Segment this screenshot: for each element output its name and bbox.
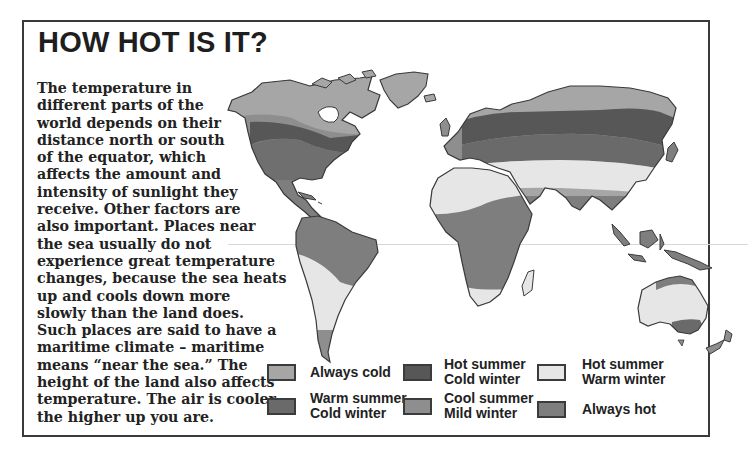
- legend-label: Warm winter: [582, 372, 666, 387]
- legend-label: Warm summer: [310, 391, 407, 406]
- legend-label: Hot summer: [582, 357, 666, 372]
- world-climate-map: [0, 0, 748, 456]
- swatch-hot-summer-cold-winter: [403, 364, 432, 381]
- north-america: [220, 70, 390, 240]
- swatch-always-hot: [537, 401, 566, 418]
- swatch-warm-summer-cold-winter: [267, 398, 296, 415]
- legend-label: Cold winter: [310, 406, 407, 421]
- legend-item-cool-summer-mild-winter: Cool summerMild winter: [403, 391, 533, 421]
- swatch-hot-summer-warm-winter: [537, 364, 566, 381]
- legend-label: Always cold: [310, 365, 391, 380]
- legend-label: Always hot: [582, 402, 656, 417]
- legend-label: Cool summer: [444, 391, 533, 406]
- legend-item-always-hot: Always hot: [537, 401, 656, 418]
- swatch-always-cold: [267, 364, 296, 381]
- legend-item-hot-summer-cold-winter: Hot summerCold winter: [403, 357, 526, 387]
- legend-label: Cold winter: [444, 372, 526, 387]
- legend-item-warm-summer-cold-winter: Warm summerCold winter: [267, 391, 407, 421]
- legend-item-hot-summer-warm-winter: Hot summerWarm winter: [537, 357, 666, 387]
- swatch-cool-summer-mild-winter: [403, 398, 432, 415]
- legend-label: Hot summer: [444, 357, 526, 372]
- legend-item-always-cold: Always cold: [267, 364, 391, 381]
- south-america: [290, 210, 390, 370]
- legend-label: Mild winter: [444, 406, 533, 421]
